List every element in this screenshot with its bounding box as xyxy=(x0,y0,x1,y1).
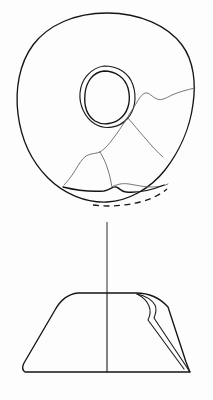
crack-lower-centre xyxy=(100,152,112,187)
disc-outer-outline xyxy=(17,13,194,202)
artifact-drawing-canvas xyxy=(0,0,213,400)
plan-view-group xyxy=(17,13,195,206)
artifact-figure xyxy=(0,0,213,400)
perforation-inner-ring xyxy=(85,71,130,124)
crack-upper-right xyxy=(100,88,195,152)
crack-lower-left xyxy=(64,152,100,185)
profile-body-outline xyxy=(23,293,190,372)
profile-view-group xyxy=(23,293,190,372)
profile-inner-edge xyxy=(137,294,190,372)
crack-mid-right xyxy=(128,118,163,157)
profile-inner-edge-return xyxy=(137,294,184,369)
